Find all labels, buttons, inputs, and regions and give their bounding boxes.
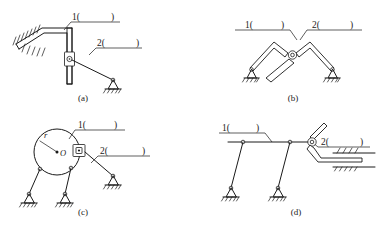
- figure-d-middle-leg: [278, 140, 292, 188]
- figure-d-left-leg: [231, 140, 245, 188]
- figure-d: 1( ) 2( ) (d): [219, 123, 375, 217]
- figure-d-ground-pivot-left: [222, 186, 240, 201]
- figure-b-link-2-paren-close: ): [350, 20, 353, 31]
- figure-b-lower-slider-bar: [266, 59, 294, 82]
- figure-d-link-1-number: 1(: [222, 123, 230, 134]
- figure-c-leader-1: [69, 130, 125, 139]
- figure-sheet: 1( ) 2( ) (a): [0, 0, 386, 225]
- figure-a-fixed-inclined-guide: [13, 25, 67, 56]
- figure-b-right-bent-link: [296, 42, 334, 71]
- figure-b-left-ground-pivot: [243, 68, 260, 82]
- figure-a-link-2-number: 2(: [97, 38, 105, 49]
- figure-b-leader-2: [300, 30, 362, 40]
- figure-c-caption: (c): [78, 207, 88, 217]
- figure-b-leader-1: [235, 30, 297, 40]
- figure-d-ground-pivot-middle: [269, 186, 287, 201]
- figure-c-link-1-number: 1(: [78, 120, 86, 131]
- figure-c-left-leg: [29, 167, 42, 194]
- figure-a-slider-block: [65, 52, 75, 66]
- figure-c-center-point: [56, 151, 59, 154]
- mechanism-figure-svg: 1( ) 2( ) (a): [0, 0, 386, 225]
- figure-a-ground-pivot-support: [104, 78, 122, 93]
- figure-c-right-link: [85, 152, 113, 176]
- figure-d-link-1-paren-close: ): [256, 123, 259, 134]
- figure-a-link-2-rod: [72, 60, 113, 80]
- figure-a: 1( ) 2( ) (a): [13, 12, 142, 103]
- figure-b-center-pin-joint: [288, 51, 296, 59]
- figure-c-ground-pivot-left: [20, 192, 38, 207]
- figure-c-radius-line: [40, 141, 57, 152]
- figure-b-link-1-number: 1(: [245, 20, 253, 31]
- figure-b-link-2-number: 2(: [312, 20, 320, 31]
- figure-d-link-2-number: 2(: [321, 137, 329, 148]
- figure-c-link-2-number: 2(: [100, 146, 108, 157]
- figure-a-link-1-paren-close: ): [111, 12, 114, 23]
- figure-b-right-ground-pivot: [324, 68, 341, 82]
- figure-c-center-label: O: [60, 148, 66, 158]
- figure-c-square-slider-block: [73, 145, 85, 157]
- figure-b: 1( ) 2( ) (b): [235, 20, 362, 103]
- figure-c-ground-pivot-right: [104, 174, 122, 189]
- figure-c: r O 1( ) 2( ) (c): [20, 120, 151, 217]
- figure-b-caption: (b): [288, 93, 299, 103]
- figure-c-link-2-paren-close: ): [142, 146, 145, 157]
- figure-c-ground-pivot-middle: [56, 192, 74, 207]
- figure-d-caption: (d): [291, 207, 302, 217]
- figure-a-link-1-number: 1(: [72, 12, 80, 23]
- figure-a-leader-2: [89, 48, 142, 55]
- figure-d-leader-1: [219, 133, 272, 142]
- figure-d-link-2-paren-close: ): [360, 137, 363, 148]
- figure-a-link-2-paren-close: ): [136, 38, 139, 49]
- figure-c-link-1-paren-close: ): [114, 120, 117, 131]
- figure-b-link-1-paren-close: ): [281, 20, 284, 31]
- figure-a-caption: (a): [78, 93, 88, 103]
- figure-c-leader-2: [91, 156, 150, 163]
